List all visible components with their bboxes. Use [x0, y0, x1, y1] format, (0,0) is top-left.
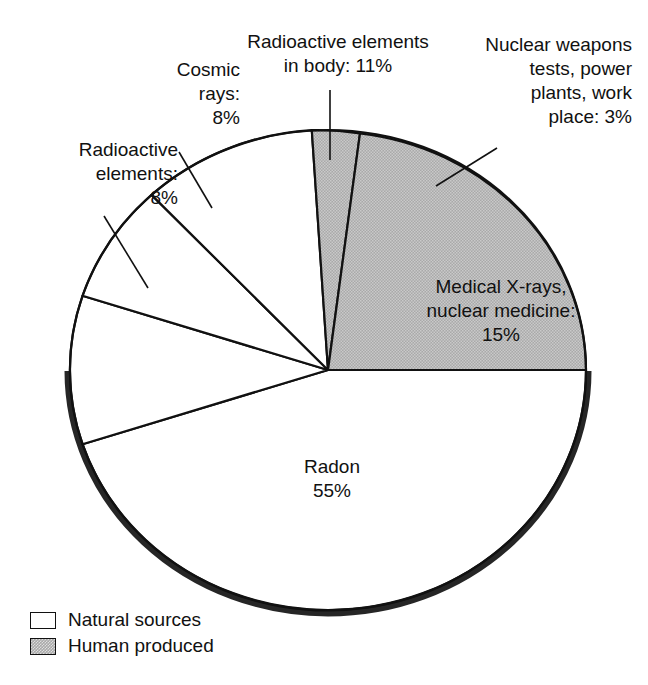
- legend-item-human-produced[interactable]: Human produced: [30, 633, 290, 659]
- legend-item-natural-sources[interactable]: Natural sources: [30, 607, 290, 633]
- slice-label-radon: Radon 55%: [262, 455, 402, 503]
- pie-chart-figure: Radioactive elements: 8% Cosmic rays: 8%…: [0, 0, 648, 685]
- chart-legend: Natural sources Human produced: [30, 607, 290, 659]
- slice-label-radioactive-elements-in-body: Radioactive elements in body: 11%: [232, 30, 444, 78]
- legend-swatch-human-produced: [30, 638, 56, 655]
- legend-label-natural-sources: Natural sources: [68, 609, 201, 631]
- slice-label-radioactive-elements: Radioactive elements: 8%: [6, 138, 178, 210]
- legend-label-human-produced: Human produced: [68, 635, 214, 657]
- slice-label-nuclear-weapons: Nuclear weapons tests, power plants, wor…: [452, 33, 632, 129]
- legend-swatch-natural-sources: [30, 612, 56, 629]
- slice-label-cosmic-rays: Cosmic rays: 8%: [88, 58, 240, 130]
- slice-label-medical-xrays: Medical X-rays, nuclear medicine: 15%: [408, 275, 594, 347]
